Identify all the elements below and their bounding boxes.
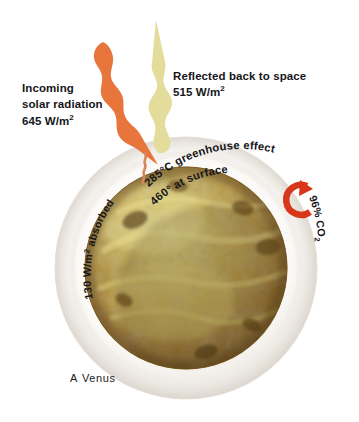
incoming-solar-radiation-label: Incoming solar radiation 645 W/m2 <box>22 80 103 129</box>
figure-caption: AVenus <box>70 372 116 384</box>
incoming-line1-text: Incoming <box>22 80 103 96</box>
caption-marker: A <box>70 372 78 384</box>
caption-label-text: Venus <box>82 372 116 384</box>
incoming-value-text: 645 W/m <box>22 115 69 127</box>
reflected-value-text: 515 W/m <box>173 86 220 98</box>
diagram-canvas: 285°C greenhouse effect 460° at surface … <box>0 0 359 422</box>
reflected-value-line: 515 W/m2 <box>173 84 306 100</box>
incoming-line2-text: solar radiation <box>22 96 103 112</box>
reflected-value-sup: 2 <box>220 85 225 94</box>
venus-energy-balance-figure: 285°C greenhouse effect 460° at surface … <box>0 0 359 422</box>
incoming-value-line: 645 W/m2 <box>22 113 103 129</box>
co2-sub-text: 2 <box>313 237 322 242</box>
reflected-space-arrow-icon <box>149 20 172 153</box>
reflected-to-space-label: Reflected back to space 515 W/m2 <box>173 68 306 101</box>
incoming-value-sup: 2 <box>69 113 74 122</box>
reflected-line1-text: Reflected back to space <box>173 68 306 84</box>
